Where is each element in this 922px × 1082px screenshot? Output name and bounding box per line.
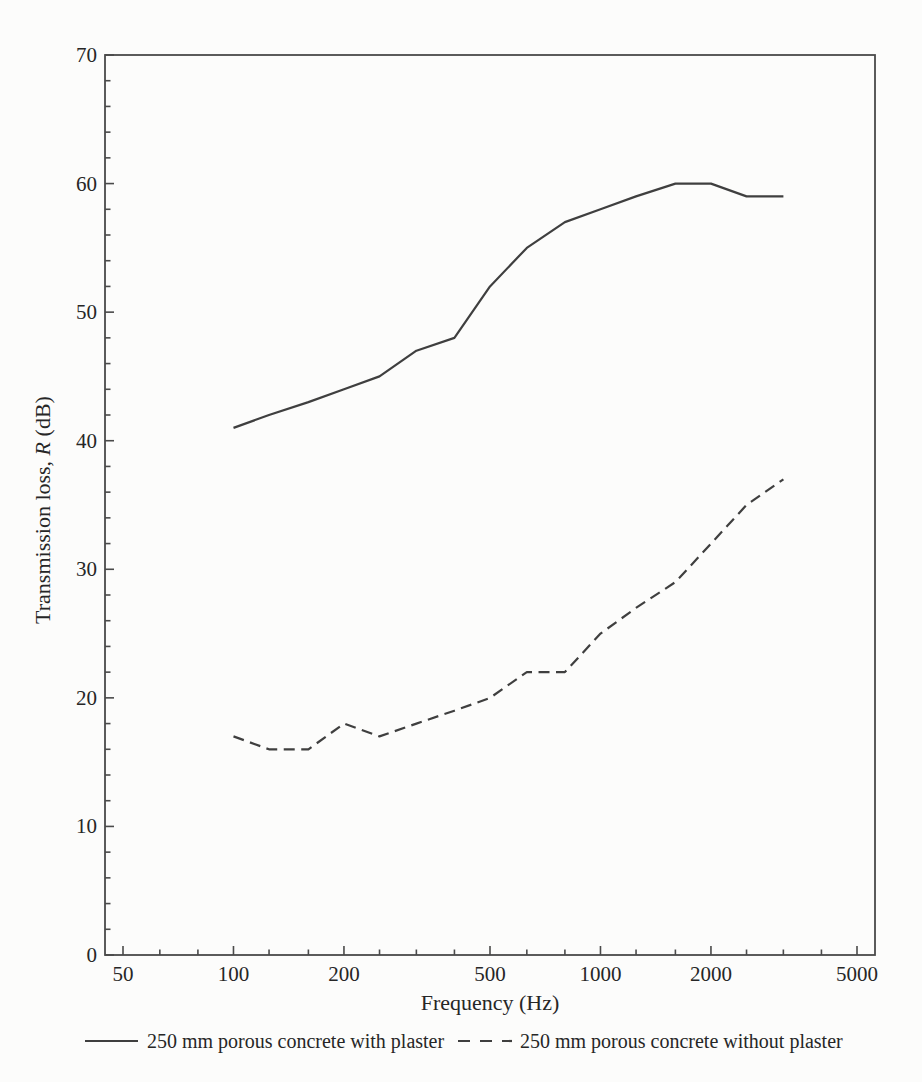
x-tick-label: 200 <box>328 962 360 986</box>
legend-item-without-plaster: 250 mm porous concrete without plaster <box>458 1030 843 1053</box>
x-axis-title: Frequency (Hz) <box>421 990 560 1015</box>
legend-label-without-plaster: 250 mm porous concrete without plaster <box>520 1030 843 1053</box>
y-tick-label: 30 <box>76 557 97 581</box>
transmission-loss-chart: 010203040506070 50100200500100020005000 … <box>0 0 922 1082</box>
legend-item-with-plaster: 250 mm porous concrete with plaster <box>85 1030 444 1053</box>
y-tick-label: 20 <box>76 686 97 710</box>
y-tick-label: 40 <box>76 429 97 453</box>
x-tick-label: 1000 <box>579 962 621 986</box>
y-tick-label: 70 <box>76 43 97 67</box>
y-tick-label: 0 <box>87 943 98 967</box>
x-tick-label: 2000 <box>690 962 732 986</box>
x-tick-label: 500 <box>474 962 506 986</box>
x-tick-label: 50 <box>113 962 134 986</box>
data-series <box>234 184 784 750</box>
series-line-without-plaster <box>234 479 784 749</box>
y-tick-label: 50 <box>76 300 97 324</box>
x-tick-label: 100 <box>218 962 250 986</box>
plot-area-border <box>105 55 875 955</box>
y-axis-ticks: 010203040506070 <box>76 43 114 967</box>
x-tick-label: 5000 <box>836 962 878 986</box>
y-tick-label: 60 <box>76 172 97 196</box>
figure-canvas: 010203040506070 50100200500100020005000 … <box>0 0 922 1082</box>
y-tick-label: 10 <box>76 814 97 838</box>
x-axis-ticks: 50100200500100020005000 <box>113 946 879 986</box>
series-line-with-plaster <box>234 184 784 428</box>
legend-label-with-plaster: 250 mm porous concrete with plaster <box>147 1030 444 1053</box>
legend: 250 mm porous concrete with plaster 250 … <box>85 1030 843 1053</box>
y-axis-title: Transmission loss, R (dB) <box>30 396 55 624</box>
